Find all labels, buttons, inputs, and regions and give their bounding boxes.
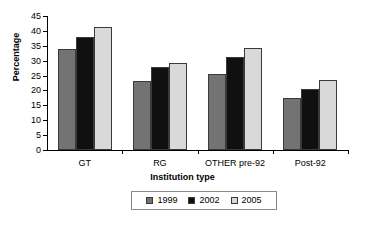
x-tick-mark — [348, 150, 349, 154]
bar — [244, 48, 262, 150]
x-tick-label: RG — [153, 158, 167, 168]
y-tick-mark — [43, 120, 47, 121]
y-tick-label: 30 — [31, 56, 41, 65]
legend-item[interactable]: 2005 — [231, 196, 262, 205]
y-tick-label: 40 — [31, 26, 41, 35]
legend-swatch-icon — [188, 197, 195, 204]
bar — [94, 27, 112, 150]
x-tick-label: GT — [78, 158, 91, 168]
x-tick-mark — [273, 150, 274, 154]
bar — [283, 98, 301, 150]
y-tick-label: 35 — [31, 41, 41, 50]
legend-swatch-icon — [231, 197, 238, 204]
y-tick-label: 5 — [36, 131, 41, 140]
x-tick-label: Post-92 — [295, 158, 326, 168]
bar-chart: Percentage 051015202530354045 GTRGOTHER … — [0, 0, 365, 227]
bar — [76, 37, 94, 150]
x-tick-mark — [122, 150, 123, 154]
bar — [58, 49, 76, 150]
y-tick-label: 0 — [36, 146, 41, 155]
legend-item[interactable]: 1999 — [146, 196, 177, 205]
y-tick-mark — [43, 105, 47, 106]
y-tick-label: 10 — [31, 116, 41, 125]
y-tick-label: 25 — [31, 71, 41, 80]
y-tick-mark — [43, 76, 47, 77]
y-tick-label: 20 — [31, 86, 41, 95]
x-axis-title: Institution type — [0, 172, 365, 182]
bar — [208, 74, 226, 150]
y-tick-mark — [43, 135, 47, 136]
bar — [301, 89, 319, 150]
legend-item[interactable]: 2002 — [188, 196, 219, 205]
plot-area: 051015202530354045 GTRGOTHER pre-92Post-… — [47, 16, 348, 150]
legend-label: 2005 — [242, 196, 262, 205]
legend-label: 2002 — [199, 196, 219, 205]
x-tick-label: OTHER pre-92 — [205, 158, 265, 168]
bar — [151, 67, 169, 150]
y-tick-mark — [43, 150, 47, 151]
bar — [169, 63, 187, 150]
y-tick-mark — [43, 46, 47, 47]
bar — [226, 57, 244, 150]
y-tick-mark — [43, 31, 47, 32]
y-tick-mark — [43, 61, 47, 62]
legend-swatch-icon — [146, 197, 153, 204]
legend-label: 1999 — [157, 196, 177, 205]
y-axis-title: Percentage — [11, 17, 21, 97]
y-tick-mark — [43, 16, 47, 17]
bar — [133, 81, 151, 150]
x-tick-mark — [198, 150, 199, 154]
y-axis-line — [47, 16, 48, 150]
chart-legend: 199920022005 — [131, 191, 277, 210]
bar — [319, 80, 337, 150]
y-tick-label: 45 — [31, 12, 41, 21]
y-tick-label: 15 — [31, 101, 41, 110]
y-tick-mark — [43, 90, 47, 91]
